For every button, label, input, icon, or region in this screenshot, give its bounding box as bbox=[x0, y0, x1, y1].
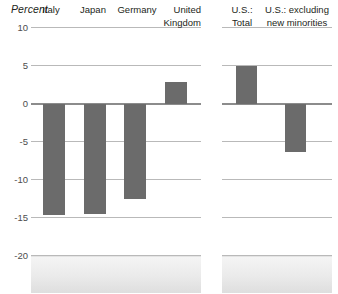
y-tick-label-10: 10 bbox=[0, 22, 28, 33]
bar-us-total bbox=[236, 66, 257, 104]
category-label-united-kingdom: United Kingdom bbox=[158, 4, 201, 29]
category-label-germany: Germany bbox=[113, 4, 161, 17]
y-tick-label-neg20: -20 bbox=[0, 250, 28, 261]
gridline-right-neg10 bbox=[222, 179, 332, 180]
bar-germany bbox=[124, 104, 146, 199]
y-tick-label-neg10: -10 bbox=[0, 174, 28, 185]
gridline-right-neg15 bbox=[222, 217, 332, 218]
percent-change-bar-chart: Percent 10 5 0 -5 -10 -15 -20 Italy Japa… bbox=[0, 0, 338, 294]
bar-united-kingdom bbox=[165, 82, 187, 104]
bar-us-excluding-new-minorities bbox=[285, 104, 306, 152]
gridline-left-5 bbox=[31, 65, 201, 66]
y-tick-label-neg15: -15 bbox=[0, 212, 28, 223]
bar-italy bbox=[43, 104, 65, 215]
y-tick-label-0: 0 bbox=[0, 98, 28, 109]
gridline-left-neg15 bbox=[31, 217, 201, 218]
category-label-us-excluding-new-minorities: U.S.: excluding new minorities bbox=[261, 4, 333, 29]
category-label-italy: Italy bbox=[31, 4, 71, 17]
category-strip-international bbox=[31, 256, 201, 293]
gridline-right-neg5 bbox=[222, 141, 332, 142]
y-tick-label-neg5: -5 bbox=[0, 136, 28, 147]
y-tick-label-5: 5 bbox=[0, 60, 28, 71]
category-label-us-total: U.S.: Total bbox=[222, 4, 262, 29]
category-strip-united-states bbox=[222, 256, 332, 293]
category-label-japan: Japan bbox=[72, 4, 114, 17]
bar-japan bbox=[84, 104, 106, 214]
